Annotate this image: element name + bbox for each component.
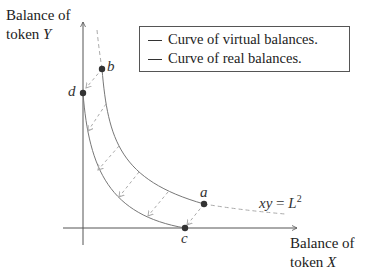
legend-line-icon	[148, 40, 162, 41]
legend-label-real: Curve of real balances.	[168, 50, 302, 66]
shift-arrows	[86, 69, 204, 225]
point-label-b: b	[107, 58, 115, 75]
legend-item-real: Curve of real balances.	[148, 50, 302, 67]
y-axis-label-line1: Balance of	[6, 6, 71, 25]
equation-eq: =	[272, 195, 288, 211]
real-balances-curve	[83, 93, 185, 228]
x-axis-label-prefix: token	[290, 254, 327, 270]
point-label-d: d	[68, 83, 76, 100]
x-axis-label-line2: token X	[290, 253, 355, 272]
x-axis-label: Balance of token X	[290, 234, 355, 272]
point-label-a: a	[200, 184, 208, 201]
point-label-c: c	[181, 230, 188, 247]
y-axis-label-line2: token Y	[6, 25, 71, 44]
point-a	[201, 201, 207, 207]
equation-label: xy = L2	[259, 193, 302, 212]
legend: Curve of virtual balances. Curve of real…	[139, 26, 350, 72]
equation-lhs: xy	[259, 195, 272, 211]
point-d	[80, 90, 86, 96]
legend-label-virtual: Curve of virtual balances.	[168, 31, 318, 47]
x-axis-label-var: X	[327, 254, 336, 270]
virtual-balances-curve	[102, 69, 204, 204]
equation-exp: 2	[297, 193, 302, 204]
legend-item-virtual: Curve of virtual balances.	[148, 31, 318, 48]
y-axis-label-prefix: token	[6, 26, 43, 42]
y-axis-label: Balance of token Y	[6, 6, 71, 44]
y-axis-label-var: Y	[43, 26, 51, 42]
equation-rhs: L	[288, 195, 296, 211]
x-axis-label-line1: Balance of	[290, 234, 355, 253]
virtual-curve-extension-top	[97, 30, 102, 69]
point-b	[99, 66, 105, 72]
legend-line-icon	[148, 59, 162, 60]
